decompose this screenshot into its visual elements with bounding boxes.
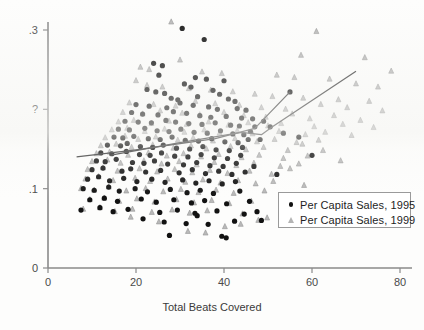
data-point-1995 — [89, 167, 94, 172]
data-point-1999 — [209, 197, 214, 202]
data-point-1995 — [235, 140, 240, 145]
data-point-1999 — [85, 166, 90, 171]
data-point-1995 — [111, 135, 116, 140]
data-point-1995 — [198, 188, 203, 193]
data-point-1999 — [380, 108, 385, 113]
data-point-1999 — [161, 189, 166, 194]
data-point-1995 — [114, 157, 119, 162]
data-point-1995 — [137, 152, 142, 157]
data-point-1995 — [158, 137, 163, 142]
data-point-1999 — [187, 210, 192, 215]
data-point-1999 — [109, 127, 114, 132]
data-point-1995 — [218, 128, 223, 133]
data-point-1999 — [138, 64, 143, 69]
data-point-1995 — [226, 96, 231, 101]
data-point-1995 — [211, 191, 216, 196]
data-point-1995 — [247, 199, 252, 204]
data-point-1995 — [151, 61, 156, 66]
data-point-1999 — [271, 178, 276, 183]
data-point-1995 — [232, 99, 237, 104]
data-point-1999 — [213, 101, 218, 106]
data-point-1999 — [205, 208, 210, 213]
data-point-1999 — [158, 108, 163, 113]
data-point-1999 — [178, 186, 183, 191]
data-point-1995 — [184, 221, 189, 226]
data-point-1995 — [224, 114, 229, 119]
data-point-1995 — [78, 207, 83, 212]
data-point-1995 — [214, 208, 219, 213]
data-point-1999 — [349, 132, 354, 137]
data-point-1999 — [362, 55, 367, 60]
data-point-1995 — [213, 120, 218, 125]
x-tick-label: 0 — [45, 276, 51, 288]
data-point-1995 — [120, 135, 125, 140]
data-point-1995 — [210, 88, 215, 93]
data-point-1995 — [97, 205, 102, 210]
data-point-1995 — [189, 200, 194, 205]
data-point-1995 — [159, 150, 164, 155]
data-point-1995 — [207, 163, 212, 168]
data-point-1999 — [340, 121, 345, 126]
data-point-1999 — [327, 76, 332, 81]
data-point-1995 — [143, 169, 148, 174]
data-point-1995 — [152, 158, 157, 163]
data-point-1995 — [157, 210, 162, 215]
data-point-1995 — [281, 131, 286, 136]
legend: Per Capita Sales, 1995 Per Capita Sales,… — [278, 192, 411, 228]
data-point-1995 — [182, 81, 187, 86]
data-point-1995 — [173, 119, 178, 124]
data-point-1995 — [213, 147, 218, 152]
data-point-1999 — [160, 84, 165, 89]
data-point-1995 — [208, 115, 213, 120]
data-point-1995 — [199, 152, 204, 157]
data-point-1999 — [222, 224, 227, 229]
data-point-1995 — [309, 153, 314, 158]
data-point-1995 — [225, 156, 230, 161]
data-point-1999 — [321, 147, 326, 152]
data-point-1995 — [191, 130, 196, 135]
data-point-1999 — [128, 214, 133, 219]
data-point-1995 — [128, 166, 133, 171]
data-point-1995 — [195, 94, 200, 99]
data-point-1995 — [87, 197, 92, 202]
data-point-1999 — [225, 170, 230, 175]
data-point-1999 — [272, 136, 277, 141]
data-point-1999 — [336, 97, 341, 102]
data-point-1999 — [294, 139, 299, 144]
data-point-1995 — [240, 145, 245, 150]
data-point-1999 — [281, 155, 286, 160]
data-point-1999 — [345, 105, 350, 110]
data-point-1995 — [133, 102, 138, 107]
data-point-1995 — [139, 196, 144, 201]
data-point-1999 — [134, 78, 139, 83]
legend-item-1999: Per Capita Sales, 1999 — [285, 212, 403, 227]
data-point-1995 — [191, 103, 196, 108]
data-point-1995 — [165, 161, 170, 166]
data-point-1995 — [197, 113, 202, 118]
data-point-1995 — [232, 219, 237, 224]
data-point-1999 — [277, 128, 282, 133]
data-point-1995 — [188, 85, 193, 90]
data-point-1999 — [134, 196, 139, 201]
data-point-1995 — [178, 127, 183, 132]
data-point-1995 — [206, 222, 211, 227]
data-point-1999 — [307, 116, 312, 121]
data-point-1999 — [115, 168, 120, 173]
data-point-1999 — [149, 209, 154, 214]
data-point-1999 — [316, 137, 321, 142]
data-point-1999 — [130, 206, 135, 211]
data-point-1995 — [229, 172, 234, 177]
data-point-1995 — [129, 110, 134, 115]
data-point-1999 — [262, 188, 267, 193]
data-point-1999 — [114, 141, 119, 146]
data-point-1995 — [206, 104, 211, 109]
data-point-1999 — [296, 161, 301, 166]
data-point-1995 — [184, 111, 189, 116]
data-point-1995 — [162, 180, 167, 185]
data-point-1995 — [172, 154, 177, 159]
data-point-1999 — [185, 228, 190, 233]
data-point-1995 — [160, 63, 165, 68]
data-point-1999 — [156, 219, 161, 224]
data-point-1995 — [177, 170, 182, 175]
data-point-1999 — [103, 135, 108, 140]
